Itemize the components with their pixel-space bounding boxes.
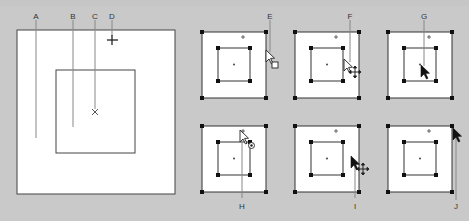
panel-h xyxy=(200,124,268,198)
solid-pointer-icon xyxy=(453,128,462,142)
label-g: G xyxy=(421,13,427,21)
panel-g xyxy=(386,20,454,100)
label-a: A xyxy=(33,13,38,21)
panel-i xyxy=(293,124,369,198)
label-f: F xyxy=(348,13,353,21)
label-h: H xyxy=(239,203,245,211)
panel-e xyxy=(200,20,278,100)
label-e: E xyxy=(267,13,272,21)
label-j: J xyxy=(454,203,458,211)
diagram-stage: A B C D E F G H I J xyxy=(0,0,469,221)
diagram-canvas xyxy=(0,0,469,221)
label-c: C xyxy=(92,13,98,21)
label-d: D xyxy=(109,13,115,21)
panel-f xyxy=(293,20,361,100)
panel-j xyxy=(386,124,462,200)
label-b: B xyxy=(70,13,75,21)
square-badge-icon xyxy=(272,62,278,68)
main-diagram xyxy=(17,20,175,194)
label-i: I xyxy=(354,203,356,211)
